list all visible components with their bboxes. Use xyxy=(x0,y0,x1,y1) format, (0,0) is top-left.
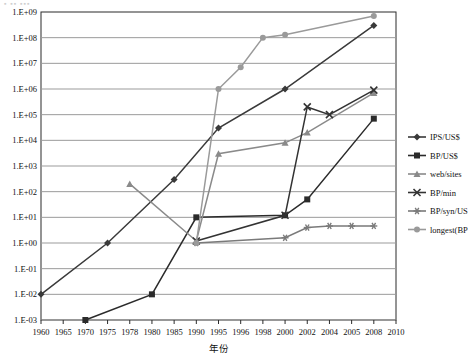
x-tick-label: 2008 xyxy=(365,327,382,337)
x-tick-label: 1978 xyxy=(121,327,138,337)
x-axis: 1960196519701975197819801985199019951996… xyxy=(33,320,405,354)
x-tick-label: 1998 xyxy=(254,327,271,337)
y-tick-label: 1.E+02 xyxy=(12,187,37,197)
x-tick-label: 1970 xyxy=(77,327,94,337)
y-tick-label: 1.E+03 xyxy=(12,161,37,171)
data-marker xyxy=(193,240,199,246)
x-tick-label: 2005 xyxy=(343,327,360,337)
chart-legend: IPS/US$BP/US$web/sitesBP/minBP/syn/USlon… xyxy=(408,132,468,235)
y-tick-label: 1.E-03 xyxy=(14,315,37,325)
y-tick-label: 1.E+05 xyxy=(12,110,37,120)
x-axis-title: 年份 xyxy=(209,343,229,354)
data-marker xyxy=(238,64,244,70)
x-tick-label: 1990 xyxy=(188,327,205,337)
data-marker xyxy=(216,86,222,92)
y-tick-label: 1.E-02 xyxy=(14,289,37,299)
y-tick-label: 1.E+01 xyxy=(12,212,37,222)
legend-label: BP/US$ xyxy=(430,151,458,161)
x-tick-label: 1965 xyxy=(55,327,72,337)
x-tick-label: 1975 xyxy=(99,327,116,337)
data-marker xyxy=(282,32,288,38)
data-marker xyxy=(371,13,377,19)
y-tick-label: 1.E+07 xyxy=(12,58,37,68)
x-tick-label: 1995 xyxy=(210,327,227,337)
data-marker xyxy=(371,116,377,122)
legend-label: BP/syn/US xyxy=(430,206,468,216)
x-tick-label: 2010 xyxy=(388,327,405,337)
y-tick-label: 1.E+00 xyxy=(12,238,37,248)
data-marker xyxy=(149,291,155,297)
y-tick-label: 1.E-01 xyxy=(14,264,37,274)
x-tick-label: 1985 xyxy=(166,327,183,337)
legend-label: longest(BP xyxy=(430,225,468,235)
x-tick-label: 1996 xyxy=(232,327,249,337)
x-tick-label: 2000 xyxy=(277,327,294,337)
y-tick-label: 1.E+08 xyxy=(12,33,37,43)
x-tick-label: 1960 xyxy=(33,327,50,337)
clipped-top-text: ▪ ▪▪ ▪▪▪ xyxy=(4,0,30,8)
x-tick-label: 2004 xyxy=(321,327,339,337)
data-marker xyxy=(304,196,310,202)
data-marker xyxy=(193,214,199,220)
data-marker xyxy=(82,317,88,323)
data-marker xyxy=(414,153,420,159)
data-marker xyxy=(260,35,266,41)
x-tick-label: 2002 xyxy=(299,327,316,337)
grid-lines: 1.E+091.E+081.E+071.E+061.E+051.E+041.E+… xyxy=(12,7,396,325)
legend-label: BP/min xyxy=(430,188,457,198)
y-tick-label: 1.E+04 xyxy=(12,135,38,145)
chart-canvas: 1.E+091.E+081.E+071.E+061.E+051.E+041.E+… xyxy=(0,0,476,355)
legend-label: web/sites xyxy=(430,169,462,179)
chart-figure: 1.E+091.E+081.E+071.E+061.E+051.E+041.E+… xyxy=(0,0,476,355)
y-tick-label: 1.E+06 xyxy=(12,84,37,94)
legend-label: IPS/US$ xyxy=(430,132,460,142)
data-marker xyxy=(414,227,420,233)
data-marker xyxy=(414,134,421,141)
x-tick-label: 1980 xyxy=(143,327,160,337)
y-tick-label: 1.E+09 xyxy=(12,7,37,17)
